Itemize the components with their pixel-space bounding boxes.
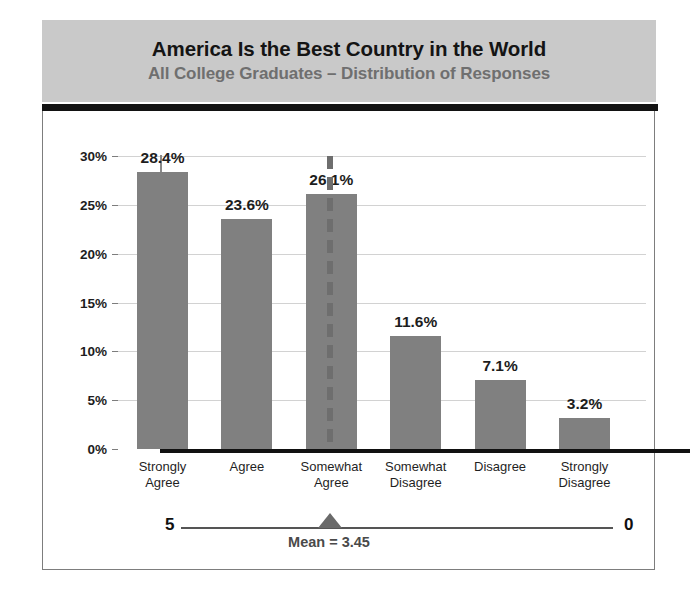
chart-title: America Is the Best Country in the World bbox=[152, 37, 546, 61]
mean-value-label: Mean = 3.45 bbox=[249, 534, 409, 550]
bar bbox=[221, 219, 272, 449]
scale-right-end-label: 0 bbox=[624, 515, 633, 535]
category-label-line: Agree bbox=[113, 475, 213, 491]
bar-value-label: 28.4% bbox=[118, 149, 208, 167]
y-tick-label: 5% bbox=[67, 393, 107, 408]
y-tick-label: 15% bbox=[67, 295, 107, 310]
bar-value-label: 11.6% bbox=[371, 313, 461, 331]
y-tick-mark bbox=[112, 449, 118, 450]
y-tick-label: 0% bbox=[67, 442, 107, 457]
y-tick-label: 20% bbox=[67, 246, 107, 261]
gridline bbox=[118, 351, 646, 352]
mean-divider-dashed-line bbox=[327, 156, 333, 450]
bar bbox=[559, 418, 610, 449]
y-tick-mark bbox=[112, 400, 118, 401]
y-tick-mark bbox=[112, 205, 118, 206]
bar bbox=[137, 172, 188, 449]
gridline bbox=[118, 254, 646, 255]
header-divider-rule bbox=[42, 104, 658, 111]
scale-axis-line bbox=[181, 527, 613, 529]
category-label-line: Disagree bbox=[366, 475, 466, 491]
y-tick-mark bbox=[112, 254, 118, 255]
scale-left-end-label: 5 bbox=[165, 515, 174, 535]
category-label-line: Disagree bbox=[535, 475, 635, 491]
gridline bbox=[118, 205, 646, 206]
bar-value-label: 23.6% bbox=[202, 196, 292, 214]
x-axis-line bbox=[160, 449, 690, 453]
bar bbox=[475, 380, 526, 449]
y-tick-label: 30% bbox=[67, 149, 107, 164]
category-label: StronglyDisagree bbox=[535, 459, 635, 491]
y-tick-mark bbox=[112, 351, 118, 352]
chart-subtitle: All College Graduates – Distribution of … bbox=[148, 64, 550, 84]
y-tick-mark bbox=[112, 303, 118, 304]
chart-panel: 30%25%20%15%10%5%0% 28.4%23.6%26.1%11.6%… bbox=[42, 111, 655, 570]
mean-triangle-marker bbox=[318, 513, 342, 528]
gridline bbox=[118, 303, 646, 304]
bar bbox=[390, 336, 441, 449]
y-tick-label: 10% bbox=[67, 344, 107, 359]
y-tick-label: 25% bbox=[67, 197, 107, 212]
category-label-line: Strongly bbox=[535, 459, 635, 475]
chart-header-band: America Is the Best Country in the World… bbox=[42, 20, 656, 102]
bar-value-label: 7.1% bbox=[455, 357, 545, 375]
bar-value-label: 3.2% bbox=[540, 395, 630, 413]
